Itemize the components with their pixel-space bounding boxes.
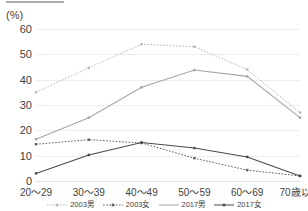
data-point-2017女-2 <box>140 141 142 143</box>
legend-label-2003男: 2003男 <box>70 201 94 209</box>
y-axis-label-30: 30 <box>20 99 32 111</box>
x-axis-label-2: 40〜49 <box>125 184 157 199</box>
data-point-2017男-2 <box>140 86 142 88</box>
dotted-line-marker-swatch <box>47 201 67 209</box>
data-point-2003男-1 <box>88 67 90 69</box>
series-line-2017女 <box>36 142 300 175</box>
data-point-2003女-0 <box>35 143 37 145</box>
dotted-line-marker-swatch <box>103 201 123 209</box>
data-point-2017男-3 <box>193 69 195 71</box>
data-point-2003女-4 <box>246 169 248 171</box>
series-2017男 <box>35 69 301 141</box>
y-axis-label-50: 50 <box>20 48 32 60</box>
data-point-2003男-5 <box>299 111 301 113</box>
x-axis-label-3: 50〜59 <box>178 184 210 199</box>
data-point-2017男-1 <box>88 116 90 118</box>
line-chart: (%) 0102030405060 20〜2930〜3940〜4950〜5960… <box>0 0 308 211</box>
x-axis-label-5: 70歳以上 <box>279 184 308 199</box>
legend-item-2017女[interactable]: 2017女 <box>214 201 261 209</box>
data-point-2017女-5 <box>299 175 301 177</box>
data-point-2017男-5 <box>299 116 301 118</box>
y-axis-label-20: 20 <box>20 124 32 136</box>
solid-line-swatch <box>159 201 179 209</box>
y-axis-label-10: 10 <box>20 150 32 162</box>
data-point-2017女-4 <box>246 156 248 158</box>
legend-item-2017男[interactable]: 2017男 <box>159 201 206 209</box>
y-axis-tick-labels: 0102030405060 <box>0 0 36 211</box>
data-point-2017男-0 <box>35 138 37 140</box>
data-point-2003男-0 <box>35 91 37 93</box>
legend-label-2017女: 2017女 <box>237 201 261 209</box>
y-axis-label-60: 60 <box>20 23 32 35</box>
chart-legend: 2003男2003女2017男2017女 <box>0 199 308 211</box>
data-point-2017女-0 <box>35 172 37 174</box>
series-lines <box>36 29 300 181</box>
data-point-2003男-2 <box>140 43 142 45</box>
legend-item-2003男[interactable]: 2003男 <box>47 201 94 209</box>
data-point-2003男-3 <box>193 46 195 48</box>
plot-area <box>36 29 300 181</box>
data-point-2003女-1 <box>88 139 90 141</box>
data-point-2017女-3 <box>193 147 195 149</box>
x-axis-label-4: 60〜69 <box>231 184 263 199</box>
series-2003女 <box>35 139 301 178</box>
legend-item-2003女[interactable]: 2003女 <box>103 201 150 209</box>
data-point-2017女-1 <box>88 154 90 156</box>
y-axis-label-40: 40 <box>20 74 32 86</box>
legend-label-2017男: 2017男 <box>182 201 206 209</box>
x-axis-tick-labels: 20〜2930〜3940〜4950〜5960〜6970歳以上 <box>36 183 300 199</box>
solid-line-marker-swatch <box>214 201 234 209</box>
data-point-2003男-4 <box>246 68 248 70</box>
series-2017女 <box>35 141 301 177</box>
data-point-2003女-3 <box>193 157 195 159</box>
x-axis-label-1: 30〜39 <box>73 184 105 199</box>
legend-label-2003女: 2003女 <box>126 201 150 209</box>
data-point-2017男-4 <box>246 75 248 77</box>
gridline-0 <box>36 181 300 182</box>
x-axis-label-0: 20〜29 <box>20 184 52 199</box>
